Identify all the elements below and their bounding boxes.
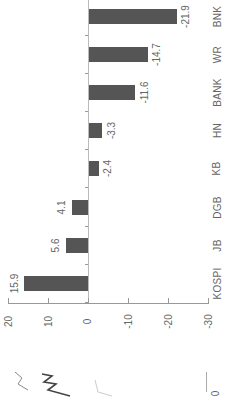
value-axis-label: 10 bbox=[43, 316, 54, 327]
category-label: DGB bbox=[211, 196, 222, 219]
partial-line-chart-fragment bbox=[0, 360, 120, 399]
value-axis-tick bbox=[48, 298, 49, 304]
value-label: -11.6 bbox=[139, 81, 150, 103]
value-label: -3.3 bbox=[106, 121, 117, 138]
value-axis-label: -10 bbox=[123, 314, 134, 328]
value-axis-tick bbox=[208, 298, 209, 304]
category-label: KOSPI bbox=[212, 267, 223, 299]
value-label: 5.6 bbox=[50, 238, 61, 252]
category-label: BNK bbox=[212, 5, 223, 26]
category-tick bbox=[85, 226, 88, 227]
value-label: 15.9 bbox=[9, 273, 20, 292]
category-label: KB bbox=[211, 161, 222, 175]
bar-wr bbox=[89, 47, 148, 62]
value-label: 4.1 bbox=[56, 200, 67, 214]
value-axis-label: -20 bbox=[163, 314, 174, 328]
value-label: -14.7 bbox=[151, 43, 162, 66]
category-label: BANK bbox=[212, 78, 223, 106]
bar-kb bbox=[89, 161, 99, 176]
chart-stage: 15.9KOSPI5.6JB4.1DGB-2.4KB-3.3HN-11.6BAN… bbox=[0, 0, 228, 399]
value-axis-tick bbox=[168, 298, 169, 304]
category-tick bbox=[85, 187, 88, 188]
value-axis-label: 0 bbox=[82, 319, 93, 325]
bar-hn bbox=[89, 123, 102, 138]
bar-bnk bbox=[89, 9, 177, 24]
bar-jb bbox=[66, 238, 88, 253]
value-label: -21.9 bbox=[180, 5, 191, 28]
bar-kospi bbox=[24, 276, 88, 291]
value-axis bbox=[8, 303, 208, 304]
value-axis-label: 20 bbox=[3, 316, 14, 327]
bar-bank bbox=[89, 85, 135, 100]
value-label: -2.4 bbox=[102, 159, 113, 176]
partial-axis-label: 0 bbox=[210, 391, 221, 397]
value-axis-tick bbox=[8, 298, 9, 304]
category-label: HN bbox=[212, 122, 223, 137]
value-axis-tick bbox=[128, 298, 129, 304]
partial-axis-line bbox=[206, 372, 207, 392]
category-tick bbox=[85, 111, 88, 112]
category-tick bbox=[85, 35, 88, 36]
value-axis-tick bbox=[88, 298, 89, 304]
category-label: JB bbox=[212, 239, 223, 251]
bar-dgb bbox=[72, 200, 88, 215]
category-tick bbox=[85, 149, 88, 150]
value-axis-label: -30 bbox=[203, 314, 214, 328]
category-tick bbox=[85, 264, 88, 265]
category-label: WR bbox=[212, 45, 223, 62]
category-tick bbox=[85, 73, 88, 74]
